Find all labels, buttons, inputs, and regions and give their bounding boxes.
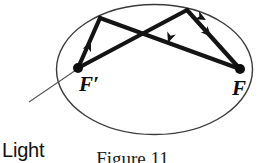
figure-optics-ellipse: Light source F′ F Figure 11 [0, 0, 265, 163]
figure-caption: Figure 11 [0, 148, 265, 163]
ellipse-mirror-boundary [57, 5, 253, 135]
focus-label-left: F′ [79, 72, 99, 97]
focus-dot-right [235, 64, 245, 74]
focus-label-right: F [232, 76, 246, 101]
